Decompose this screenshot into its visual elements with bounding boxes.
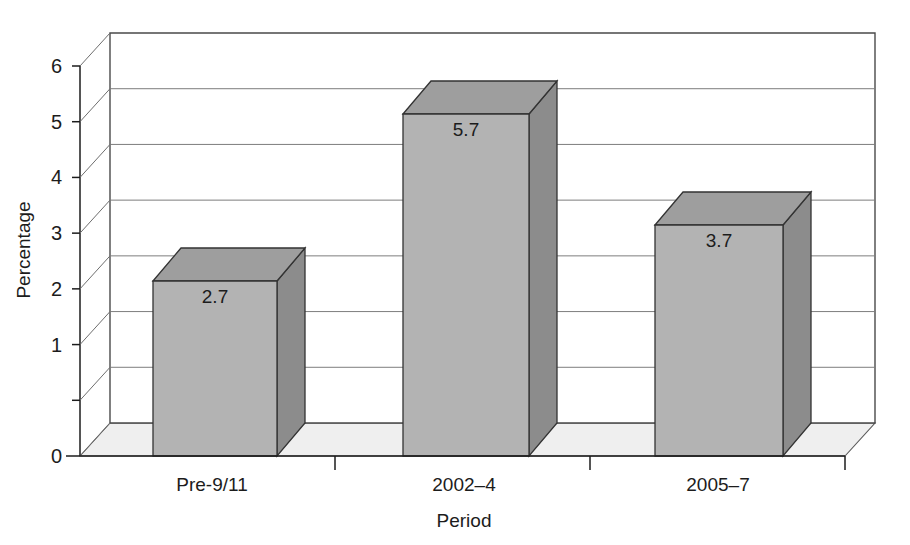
y-tick-label-1: 1 bbox=[51, 334, 62, 356]
bar-value-label-2: 3.7 bbox=[706, 230, 732, 251]
bar-side-face-1 bbox=[529, 81, 557, 456]
bar-group-0[interactable]: 2.7 bbox=[153, 248, 305, 456]
bar-side-face-0 bbox=[277, 248, 305, 456]
bar-group-2[interactable]: 3.7 bbox=[655, 192, 811, 456]
bar-value-label-1: 5.7 bbox=[453, 119, 479, 140]
y-tick-label-2: 2 bbox=[51, 278, 62, 300]
x-axis-title: Period bbox=[437, 510, 492, 531]
bar-front-face-1 bbox=[403, 114, 529, 456]
bar-chart-figure: 6 5 4 3 2 1 0 Percentage 2.7 5.7 bbox=[0, 0, 910, 545]
bar-front-face-2 bbox=[655, 225, 783, 456]
y-axis-ticks bbox=[66, 66, 80, 456]
y-tick-label-0: 0 bbox=[51, 445, 62, 467]
bar-value-label-0: 2.7 bbox=[202, 286, 228, 307]
chart-canvas: 6 5 4 3 2 1 0 Percentage 2.7 5.7 bbox=[0, 0, 910, 545]
x-category-label-1: 2002–4 bbox=[432, 474, 496, 495]
x-category-label-0: Pre-9/11 bbox=[176, 474, 247, 495]
y-tick-label-3: 3 bbox=[51, 222, 62, 244]
bar-top-face-1 bbox=[403, 81, 557, 114]
y-tick-label-4: 4 bbox=[51, 166, 62, 188]
y-tick-label-6: 6 bbox=[51, 55, 62, 77]
bar-group-1[interactable]: 5.7 bbox=[403, 81, 557, 456]
x-category-label-2: 2005–7 bbox=[686, 474, 749, 495]
x-axis: Pre-9/11 2002–4 2005–7 Period bbox=[80, 456, 845, 531]
y-axis: 6 5 4 3 2 1 0 Percentage bbox=[13, 33, 110, 467]
x-axis-ticks bbox=[335, 456, 845, 470]
y-axis-title: Percentage bbox=[13, 201, 34, 298]
bar-front-face-0 bbox=[153, 281, 277, 456]
bar-top-face-2 bbox=[655, 192, 811, 225]
y-axis-depth-connectors bbox=[80, 33, 110, 456]
bar-side-face-2 bbox=[783, 192, 811, 456]
y-tick-label-5: 5 bbox=[51, 111, 62, 133]
